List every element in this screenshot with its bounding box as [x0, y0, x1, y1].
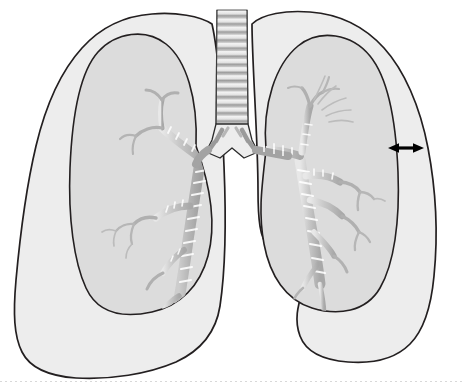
- lung-illustration: [0, 0, 463, 386]
- lung-diagram-svg: [0, 0, 463, 386]
- bottom-divider: [0, 381, 463, 382]
